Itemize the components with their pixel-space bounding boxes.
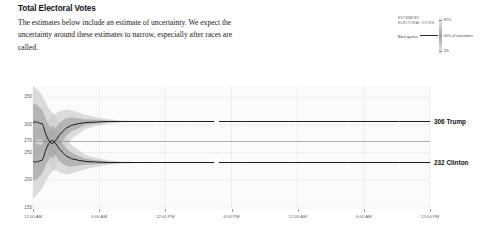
x-axis-tickmark (165, 209, 166, 212)
x-axis-tick-6: 12:00 PM (410, 214, 450, 219)
header-block: Total Electoral Votes The estimates belo… (18, 4, 268, 54)
page-title: Total Electoral Votes (18, 4, 268, 13)
legend-tick-high: 95% (444, 18, 452, 22)
x-axis-tick-2: 12:00 PM (145, 214, 185, 219)
y-axis-tick-150: 150 (12, 205, 32, 210)
legend-tick-low: 5% (444, 49, 450, 53)
y-axis-tick-200: 200 (12, 177, 32, 182)
legend-tickmark-high (439, 20, 443, 21)
legend-tickmark-middle (439, 35, 443, 36)
x-axis-tickmark (33, 209, 34, 212)
x-axis-tickmark (232, 209, 233, 212)
x-axis-tickmark (430, 209, 431, 212)
legend-tick-middle: 50% of outcomes (444, 34, 473, 38)
electoral-votes-chart: 350300270250200150 12:00 AM6:00 AM12:00 … (0, 84, 494, 236)
chart-description: The estimates below include an estimate … (18, 17, 250, 54)
x-axis-tick-3: 6:00 PM (212, 214, 252, 219)
y-axis-tick-350: 350 (12, 94, 32, 99)
x-axis-tick-1: 6:00 AM (79, 214, 119, 219)
legend-tickmark-low (439, 51, 443, 52)
x-axis-tick-4: 12:00 AM (278, 214, 318, 219)
y-axis-tick-250: 250 (12, 150, 32, 155)
legend-best-guess-line (420, 35, 438, 36)
x-axis-tickmark (364, 209, 365, 212)
legend-title: ESTIMATED ELECTORAL VOTES (398, 16, 438, 27)
y-axis-tick-270: 270 (12, 138, 32, 143)
legend: ESTIMATED ELECTORAL VOTES Best guess 95%… (398, 14, 492, 60)
result-label-clinton: 232 Clinton (434, 159, 468, 166)
x-axis-tickmark (99, 209, 100, 212)
x-axis-tick-5: 6:00 AM (344, 214, 384, 219)
y-axis-tick-300: 300 (12, 122, 32, 127)
x-axis-tickmark (298, 209, 299, 212)
result-label-trump: 306 Trump (434, 118, 466, 125)
legend-best-guess-label: Best guess (398, 34, 418, 39)
x-axis-tick-0: 12:00 AM (13, 214, 53, 219)
